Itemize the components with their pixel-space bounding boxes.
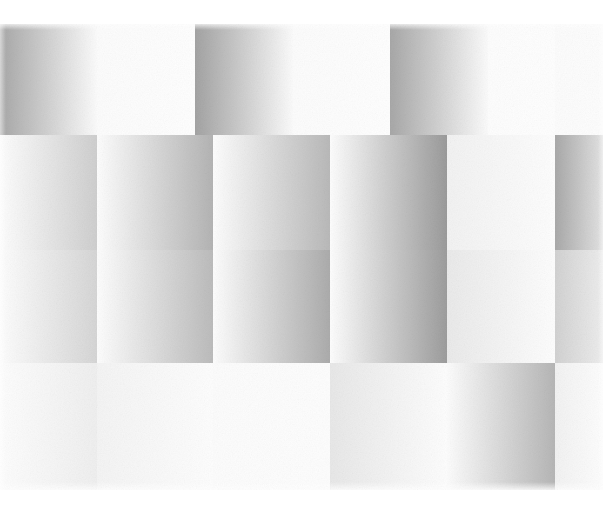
gradient-cell bbox=[447, 250, 555, 363]
gradient-cell bbox=[330, 250, 447, 363]
gradient-cell bbox=[555, 250, 603, 363]
gradient-cell bbox=[555, 135, 603, 250]
band-bottom bbox=[0, 363, 603, 490]
gradient-cell bbox=[97, 250, 213, 363]
gradient-cell bbox=[0, 250, 97, 363]
gradient-cell bbox=[213, 135, 330, 250]
artwork-plate bbox=[0, 24, 603, 490]
gradient-cell bbox=[390, 24, 488, 135]
gradient-cell bbox=[213, 363, 330, 490]
band-middle-lower bbox=[0, 250, 603, 363]
gradient-cell bbox=[330, 135, 447, 250]
gradient-cell bbox=[97, 24, 195, 135]
gradient-cell bbox=[0, 24, 97, 135]
gradient-cell bbox=[213, 250, 330, 363]
artwork-canvas bbox=[0, 0, 603, 505]
gradient-cell bbox=[447, 135, 555, 250]
band-middle-upper bbox=[0, 135, 603, 250]
gradient-cell bbox=[555, 24, 603, 135]
gradient-cell bbox=[195, 24, 293, 135]
band-top bbox=[0, 24, 603, 135]
gradient-cell bbox=[330, 363, 447, 490]
gradient-cell bbox=[447, 363, 555, 490]
gradient-cell bbox=[97, 135, 213, 250]
gradient-cell bbox=[97, 363, 213, 490]
gradient-cell bbox=[293, 24, 390, 135]
gradient-cell bbox=[0, 135, 97, 250]
gradient-cell bbox=[0, 363, 97, 490]
gradient-bands-layer bbox=[0, 24, 603, 490]
gradient-cell bbox=[488, 24, 555, 135]
gradient-cell bbox=[555, 363, 603, 490]
